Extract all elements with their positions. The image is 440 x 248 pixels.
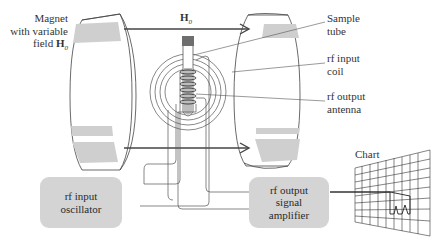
left-magnet-pole (70, 14, 136, 170)
magnet-label-line3: field H0 (4, 37, 68, 55)
chart-trace (390, 192, 410, 214)
magnet-label-line1: Magnet (4, 12, 68, 25)
rf-output-antenna-label: rf output antenna (327, 90, 365, 115)
rf-input-oscillator-box: rf input oscillator (40, 177, 122, 228)
magnet-label-line2: with variable (4, 25, 68, 38)
chart-grid (355, 150, 430, 236)
rf-output-amplifier-box: rf output signal amplifier (249, 177, 329, 228)
rf-input-coil-label: rf input coil (327, 52, 360, 77)
magnet-label: Magnet with variable field H0 (4, 12, 68, 55)
sample-tube-label: Sample tube (327, 12, 360, 37)
field-label: H0 (180, 11, 192, 29)
chart-label: Chart (355, 148, 379, 161)
